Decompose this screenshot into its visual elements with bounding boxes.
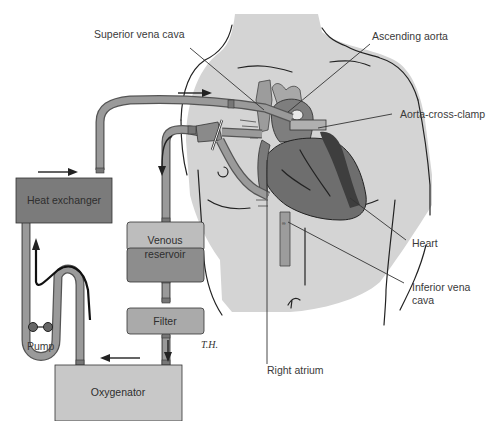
label-right-atrium: Right atrium (267, 364, 324, 376)
filter-label: Filter (153, 315, 177, 327)
venous-reservoir: Venous reservoir (127, 222, 204, 282)
svg-text:∞: ∞ (282, 220, 286, 226)
filter: Filter (127, 308, 204, 334)
artist-signature: T.H. (201, 339, 218, 350)
venous-reservoir-label-1: Venous (147, 234, 182, 246)
oxygenator-label: Oxygenator (91, 386, 146, 398)
label-heart: Heart (412, 237, 438, 249)
heat-exchanger: Heat exchanger (16, 178, 112, 223)
label-pump: Pump (27, 340, 55, 352)
oxygenator: Oxygenator (55, 365, 182, 421)
label-aorta-cross-clamp: Aorta-cross-clamp (400, 108, 485, 120)
heat-exchanger-label: Heat exchanger (27, 194, 102, 206)
pump-roller-left (29, 323, 38, 332)
label-ascending-aorta: Ascending aorta (372, 30, 448, 42)
bypass-diagram: ∞ (0, 0, 492, 421)
pump-roller-right (44, 323, 53, 332)
label-inferior-vena-cava-1: Inferior vena (412, 281, 471, 293)
label-superior-vena-cava: Superior vena cava (94, 28, 185, 40)
aorta-cross-clamp (290, 120, 326, 130)
venous-reservoir-label-2: reservoir (145, 248, 186, 260)
label-inferior-vena-cava-2: cava (412, 294, 434, 306)
